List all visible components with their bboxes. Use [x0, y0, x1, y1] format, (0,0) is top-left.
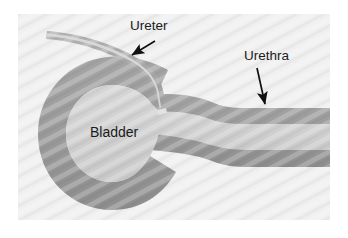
- anatomy-diagram: Ureter Urethra Bladder: [0, 0, 348, 238]
- label-bladder: Bladder: [90, 124, 139, 140]
- label-ureter: Ureter: [130, 18, 168, 33]
- figure-root: Ureter Urethra Bladder: [0, 0, 348, 238]
- label-urethra: Urethra: [244, 48, 290, 63]
- label-bladder-group: Bladder: [90, 124, 139, 140]
